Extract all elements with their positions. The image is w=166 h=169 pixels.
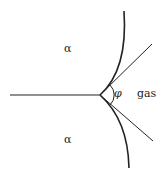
lower-gas-interface-curve [100,95,129,168]
dihedral-angle-phi-label: φ [114,88,122,99]
lower-tangent-line [100,95,153,141]
alpha-phase-top-label: α [64,43,71,54]
alpha-phase-bottom-label: α [64,134,71,145]
gas-phase-label: gas [137,88,156,99]
triple-junction-diagram [0,0,166,169]
